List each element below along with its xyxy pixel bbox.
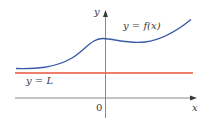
- origin-label: 0: [96, 102, 102, 113]
- x-axis-arrow-icon: [190, 96, 197, 101]
- asymptote-diagram: y x 0 y = f(x) y = L: [0, 0, 207, 122]
- x-axis-label: x: [192, 102, 198, 113]
- y-axis-arrow-icon: [103, 10, 108, 17]
- asymptote-label: y = L: [25, 75, 53, 86]
- curve-label: y = f(x): [122, 20, 161, 31]
- function-curve: [16, 20, 191, 69]
- y-axis-label: y: [93, 6, 100, 17]
